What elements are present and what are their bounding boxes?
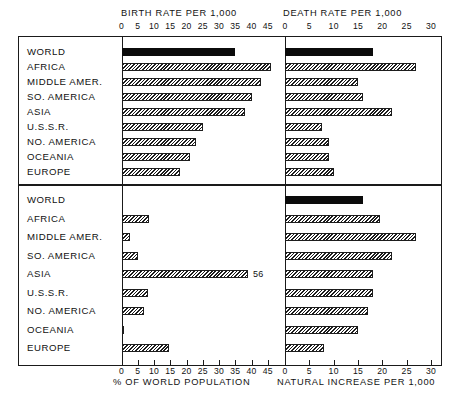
category-label: NO. AMERICA — [27, 304, 96, 317]
tick-label: 5 — [307, 366, 312, 376]
category-label: U.S.S.R. — [27, 286, 69, 299]
bar — [285, 123, 322, 131]
bar — [285, 289, 373, 297]
tick-label: 20 — [377, 366, 387, 376]
bar — [285, 153, 329, 161]
population-axis-title: % OF WORLD POPULATION — [113, 377, 250, 387]
bar — [122, 108, 246, 116]
bar-value-label: 56 — [253, 270, 264, 278]
bar — [285, 233, 416, 241]
bar — [122, 138, 197, 146]
bar — [285, 344, 324, 352]
bar — [122, 289, 148, 297]
category-label: AFRICA — [27, 60, 65, 73]
death-rate-axis-title: DEATH RATE PER 1,000 — [283, 8, 402, 18]
category-label: WORLD — [27, 45, 65, 58]
bar — [122, 168, 181, 176]
bar — [122, 270, 249, 278]
category-label: SO. AMERICA — [27, 249, 95, 262]
tick-label: 5 — [307, 21, 312, 31]
bar — [285, 252, 392, 260]
category-label: MIDDLE AMER. — [27, 230, 102, 243]
category-label: MIDDLE AMER. — [27, 75, 102, 88]
bar — [285, 307, 368, 315]
bar — [122, 78, 262, 86]
category-label: OCEANIA — [27, 323, 74, 336]
tick-label: 25 — [402, 366, 412, 376]
bar — [122, 344, 169, 352]
bar — [285, 215, 380, 223]
bar — [122, 326, 124, 334]
bar — [122, 123, 203, 131]
category-label: WORLD — [27, 193, 65, 206]
bar — [285, 108, 392, 116]
category-label: EUROPE — [27, 341, 71, 354]
bar — [122, 153, 190, 161]
bar — [285, 326, 358, 334]
category-label: OCEANIA — [27, 150, 74, 163]
tick-label: 10 — [329, 366, 339, 376]
category-label: U.S.S.R. — [27, 120, 69, 133]
population-rates-figure: BIRTH RATE PER 1,000 DEATH RATE PER 1,00… — [0, 0, 458, 399]
category-label: SO. AMERICA — [27, 90, 95, 103]
bar — [285, 63, 416, 71]
tick-label: 15 — [353, 366, 363, 376]
bar — [285, 270, 373, 278]
bar — [285, 138, 329, 146]
tick-label: 0 — [282, 21, 287, 31]
category-label: EUROPE — [27, 165, 71, 178]
tick-label: 0 — [282, 366, 287, 376]
bar — [122, 48, 236, 56]
bar — [285, 93, 363, 101]
birth-rate-axis-title: BIRTH RATE PER 1,000 — [121, 8, 237, 18]
tick-label: 25 — [402, 21, 412, 31]
bar — [122, 307, 145, 315]
bar — [122, 63, 272, 71]
bar — [122, 233, 130, 241]
tick-label: 30 — [426, 366, 436, 376]
category-label: AFRICA — [27, 212, 65, 225]
bar — [285, 196, 363, 204]
tick-label: 15 — [353, 21, 363, 31]
bar — [285, 78, 358, 86]
bar — [122, 215, 150, 223]
tick-label: 10 — [329, 21, 339, 31]
bar — [122, 252, 138, 260]
category-label: ASIA — [27, 105, 51, 118]
bar — [285, 168, 334, 176]
tick-label: 30 — [426, 21, 436, 31]
increase-axis-title: NATURAL INCREASE PER 1,000 — [277, 377, 435, 387]
bar — [285, 48, 373, 56]
bar — [122, 93, 252, 101]
death-rate-tick-labels: 051015202530 — [0, 21, 458, 33]
tick-label: 20 — [377, 21, 387, 31]
category-label: ASIA — [27, 267, 51, 280]
category-label: NO. AMERICA — [27, 135, 96, 148]
